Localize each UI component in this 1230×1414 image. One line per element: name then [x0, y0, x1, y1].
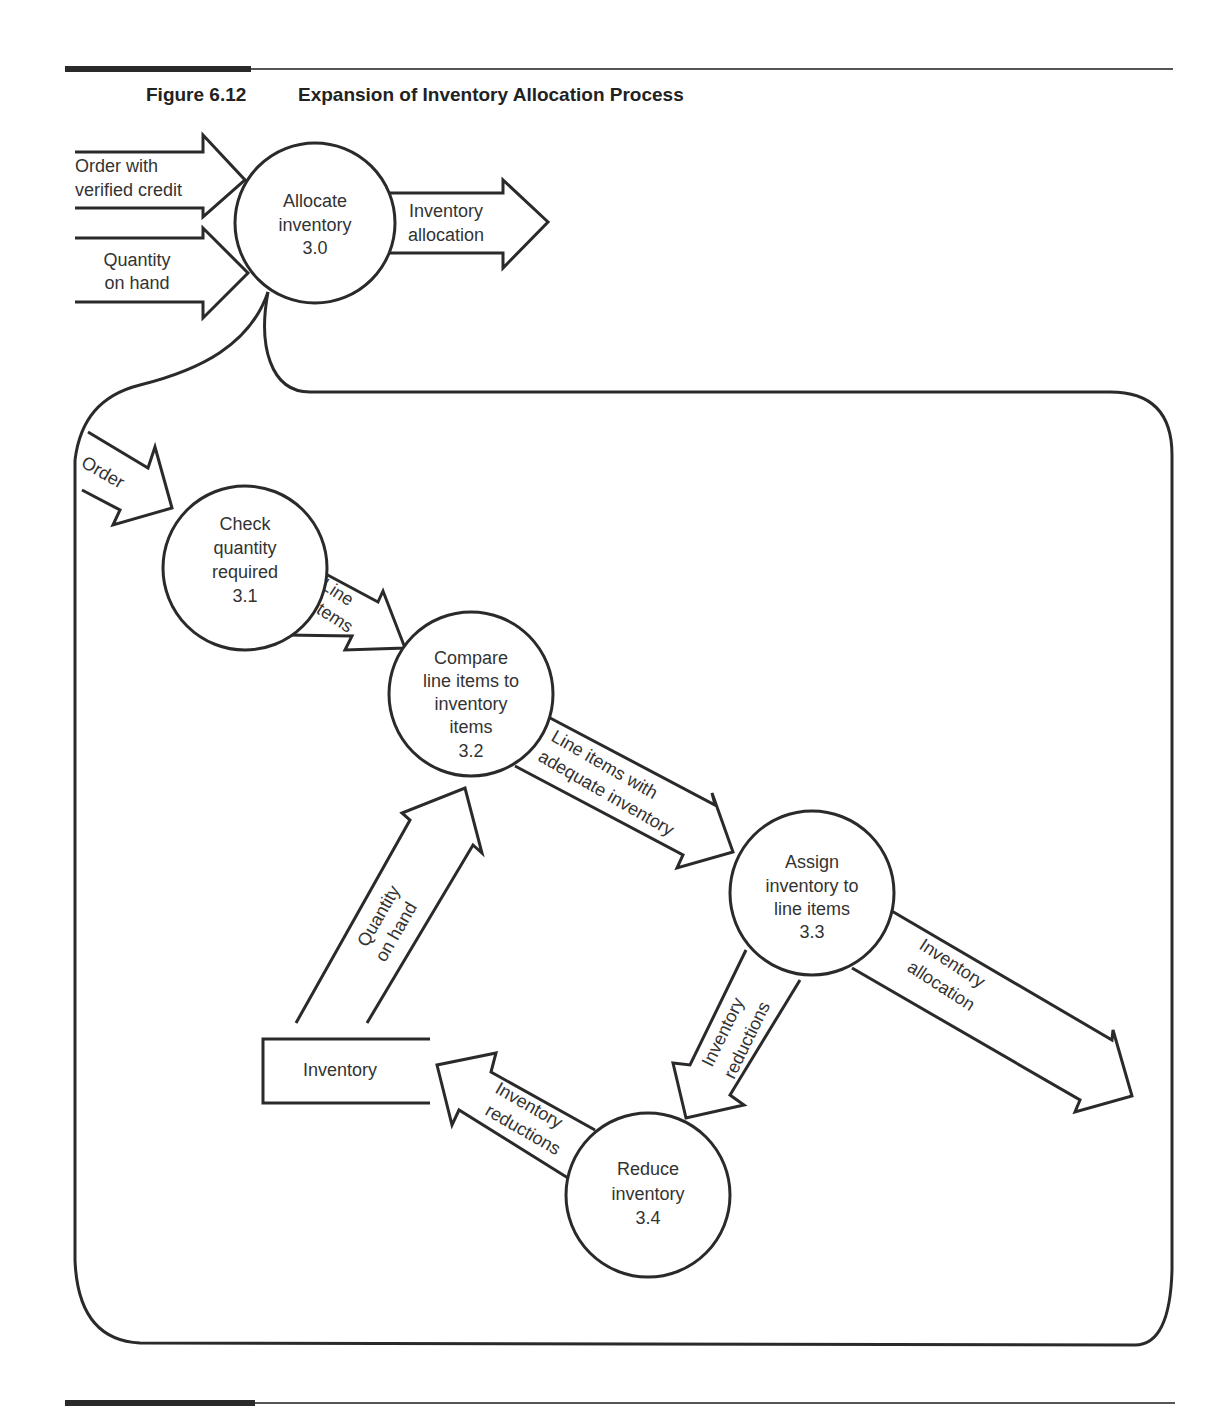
process-label: Compare: [434, 648, 508, 668]
process-label: quantity: [213, 538, 276, 558]
flow-arrow-inventory-reductions-1: [673, 950, 800, 1118]
flow-label: allocation: [408, 225, 484, 245]
bottom-rule-accent: [65, 1400, 255, 1406]
process-label: inventory: [611, 1184, 684, 1204]
flow-label: verified credit: [75, 180, 182, 200]
flow-label: Quantity: [103, 250, 170, 270]
process-label: Assign: [785, 852, 839, 872]
dfd-diagram: Order with verified credit Quantity on h…: [0, 0, 1230, 1414]
process-label: inventory to: [765, 876, 858, 896]
data-store-label: Inventory: [303, 1060, 377, 1080]
expansion-connector: [265, 292, 1110, 392]
process-label: required: [212, 562, 278, 582]
process-label: Reduce: [617, 1159, 679, 1179]
expansion-connector: [75, 292, 268, 460]
process-id: 3.3: [799, 922, 824, 942]
flow-label: Order with: [75, 156, 158, 176]
process-label: line items to: [423, 671, 519, 691]
process-label: line items: [774, 899, 850, 919]
process-id: 3.0: [302, 238, 327, 258]
process-id: 3.4: [635, 1208, 660, 1228]
process-id: 3.1: [232, 586, 257, 606]
process-label: items: [449, 717, 492, 737]
process-label: Check: [219, 514, 271, 534]
process-label: Allocate: [283, 191, 347, 211]
flow-label: Inventory: [409, 201, 483, 221]
process-id: 3.2: [458, 741, 483, 761]
flow-label: on hand: [104, 273, 169, 293]
flow-arrow-inventory-allocation-out: [852, 910, 1132, 1112]
flow-arrow-inventory-allocation: [385, 180, 548, 268]
process-label: inventory: [434, 694, 507, 714]
process-label: inventory: [278, 215, 351, 235]
flow-arrow-order-verified-credit: [75, 135, 245, 217]
flow-arrow-line-items-adequate: [515, 710, 733, 868]
